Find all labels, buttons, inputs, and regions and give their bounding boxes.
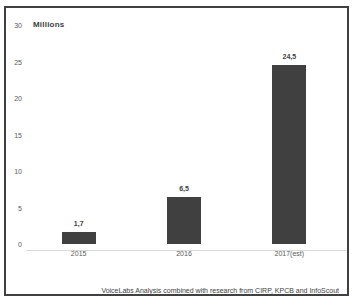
bar-2015	[62, 232, 96, 244]
bar-value-label: 1,7	[74, 220, 84, 227]
x-axis-tick-label: 2016	[176, 250, 192, 257]
x-axis-tick-label: 2015	[71, 250, 87, 257]
y-axis-tick-label: 10	[6, 168, 22, 175]
y-axis-tick-label: 0	[6, 241, 22, 248]
chart-frame: Millions VoiceLabs Analysis combined wit…	[4, 6, 349, 296]
chart-source-caption: VoiceLabs Analysis combined with researc…	[101, 287, 339, 294]
y-axis-tick-label: 25	[6, 58, 22, 65]
y-axis-title: Millions	[33, 20, 64, 29]
x-axis-tick-label: 2017(est)	[275, 250, 305, 257]
y-axis-tick-label: 30	[6, 22, 22, 29]
chart-screenshot: Millions VoiceLabs Analysis combined wit…	[0, 0, 355, 305]
bar-value-label: 24,5	[283, 53, 297, 60]
bar-2017(est)	[272, 65, 306, 244]
bar-value-label: 6,5	[179, 185, 189, 192]
bar-2016	[167, 197, 201, 244]
y-axis-tick-label: 5	[6, 204, 22, 211]
y-axis-tick-label: 20	[6, 95, 22, 102]
y-axis-tick-label: 15	[6, 131, 22, 138]
